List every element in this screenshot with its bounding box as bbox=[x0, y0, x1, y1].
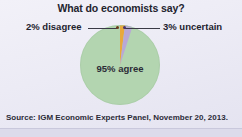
callout-leader-line-uncertain bbox=[124, 28, 160, 29]
pie-callout-label-uncertain: 3% uncertain bbox=[163, 21, 222, 33]
callout-leader-line-disagree bbox=[88, 28, 117, 29]
callout-dot-uncertain bbox=[123, 26, 126, 29]
pie-callout-label-disagree: 2% disagree bbox=[26, 21, 81, 33]
bottom-band bbox=[0, 129, 242, 137]
source-note: Source: IGM Economic Experts Panel, Nove… bbox=[6, 112, 228, 123]
callout-dot-disagree bbox=[116, 26, 119, 29]
chart-figure: What do economists say? 95% agree 2% dis… bbox=[0, 0, 242, 137]
chart-title: What do economists say? bbox=[0, 2, 242, 15]
pie-slice-label-agree: 95% agree bbox=[80, 63, 160, 75]
